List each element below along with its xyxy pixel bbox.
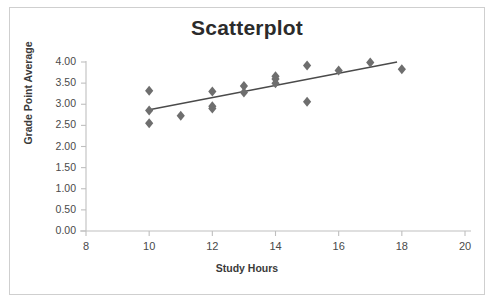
x-tick-label: 8 [71,240,101,252]
y-tick-label: 2.50 [38,119,76,130]
y-tick-label: 3.00 [38,98,76,109]
x-tick-label: 18 [387,240,417,252]
y-tick-label: 0.00 [38,225,76,236]
data-point-marker [145,86,153,96]
data-point-marker [177,111,185,121]
data-point-marker [303,60,311,70]
data-point-marker [145,106,153,116]
y-tick-label: 4.00 [38,56,76,67]
x-tick-label: 10 [134,240,164,252]
data-point-marker [240,87,248,97]
plot-area [0,0,494,305]
scatterplot-screenshot: Scatterplot Grade Point Average Study Ho… [0,0,494,305]
data-point-marker [208,87,216,97]
data-point-marker [303,97,311,107]
data-point-marker [366,57,374,67]
x-tick-label: 14 [261,240,291,252]
x-tick-label: 12 [197,240,227,252]
y-tick-label: 3.50 [38,77,76,88]
y-tick-label: 0.50 [38,204,76,215]
y-tick-label: 1.00 [38,183,76,194]
x-tick-label: 20 [450,240,480,252]
y-tick-label: 2.00 [38,141,76,152]
data-point-marker [398,64,406,74]
trendline [149,62,397,110]
x-tick-label: 16 [324,240,354,252]
y-tick-label: 1.50 [38,162,76,173]
data-point-marker [145,118,153,128]
